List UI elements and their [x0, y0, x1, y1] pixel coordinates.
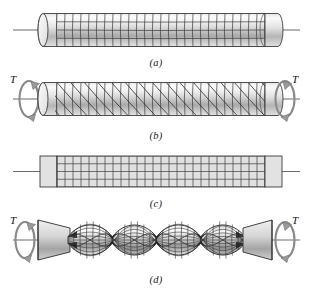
torque-arrow-left-d [16, 222, 36, 263]
panel-c-left-block [40, 156, 57, 187]
panel-d [13, 220, 300, 263]
panel-c [13, 156, 300, 187]
panel-a-body [56, 14, 265, 47]
torque-arrow-right-d [276, 222, 295, 263]
caption-panel-b: (b) [0, 130, 312, 141]
panel-a [13, 14, 300, 47]
caption-panel-c: (c) [0, 198, 312, 209]
panel-a-left-cap [38, 14, 57, 47]
torque-label-d-right: T [292, 214, 298, 226]
torque-label-b-left: T [10, 73, 16, 85]
caption-panel-a: (a) [0, 57, 312, 68]
panel-d-left-flare [38, 220, 70, 260]
torque-label-b-right: T [292, 73, 298, 85]
torque-arrow-left-b [20, 81, 40, 122]
torque-label-d-left: T [10, 214, 16, 226]
panel-b [0, 81, 305, 122]
caption-panel-d: (d) [0, 274, 312, 285]
panel-b-left-cap [38, 83, 57, 116]
figure-canvas [0, 0, 312, 293]
panel-c-right-block [265, 156, 282, 187]
panel-d-right-flare [243, 220, 272, 260]
panel-c-body [57, 156, 265, 187]
torsion-figure: T T T T (a) (b) (c) (d) [0, 0, 312, 293]
